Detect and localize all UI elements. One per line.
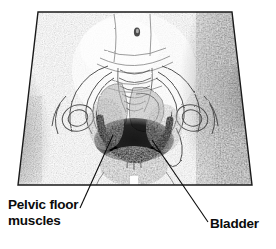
pelvic-side-stipple-right [146, 104, 182, 152]
label-pelvic-floor-muscles: Pelvic floor muscles [8, 197, 78, 229]
torso-body [10, 8, 266, 190]
label-bladder-text: Bladder [210, 216, 259, 232]
label-pelvic-floor-line1: Pelvic floor [8, 197, 78, 213]
navel [134, 27, 140, 36]
label-pelvic-floor-line2: muscles [8, 213, 78, 229]
label-bladder: Bladder [210, 216, 259, 232]
pelvic-side-stipple-left [88, 98, 124, 150]
upper-belly-highlight [80, 18, 160, 78]
